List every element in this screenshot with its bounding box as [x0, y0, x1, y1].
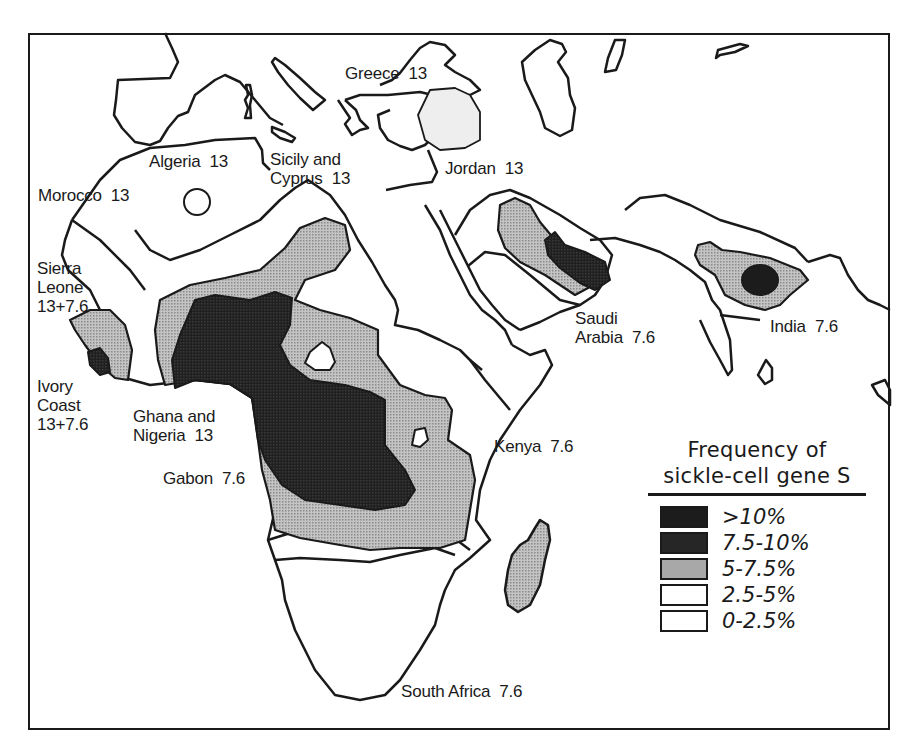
label-morocco: Morocco 13: [38, 186, 129, 205]
swatch-very-low: [660, 610, 708, 632]
legend-label: >10%: [722, 505, 786, 529]
label-jordan: Jordan 13: [445, 159, 523, 178]
legend-label: 2.5-5%: [722, 583, 796, 607]
legend-item-very-low: 0-2.5%: [660, 608, 866, 634]
legend-label: 7.5-10%: [722, 531, 810, 555]
legend-item-high: 7.5-10%: [660, 530, 866, 556]
label-ghana-nigeria: Ghana and Nigeria 13: [133, 407, 215, 445]
legend-divider: [648, 493, 866, 496]
swatch-medium: [660, 558, 708, 580]
legend-label: 5-7.5%: [722, 557, 796, 581]
legend: Frequency of sickle-cell gene S >10% 7.5…: [648, 437, 866, 634]
swatch-high: [660, 532, 708, 554]
label-algeria: Algeria 13: [149, 152, 228, 171]
label-sicily-cyprus: Sicily and Cyprus 13: [270, 150, 350, 188]
label-sierra-leone: Sierra Leone 13+7.6: [37, 259, 88, 316]
legend-title-line1: Frequency of: [648, 437, 866, 463]
label-kenya: Kenya 7.6: [494, 437, 573, 456]
legend-item-medium: 5-7.5%: [660, 556, 866, 582]
label-india: India 7.6: [770, 317, 838, 336]
swatch-very-high: [660, 506, 708, 528]
label-gabon: Gabon 7.6: [163, 469, 245, 488]
label-greece: Greece 13: [345, 64, 427, 83]
legend-label: 0-2.5%: [722, 609, 796, 633]
label-south-africa: South Africa 7.6: [401, 682, 522, 701]
label-ivory-coast: Ivory Coast 13+7.6: [37, 377, 88, 434]
swatch-low: [660, 584, 708, 606]
legend-title-line2: sickle-cell gene S: [648, 463, 866, 489]
legend-item-very-high: >10%: [660, 504, 866, 530]
label-saudi-arabia: Saudi Arabia 7.6: [575, 309, 655, 347]
legend-item-low: 2.5-5%: [660, 582, 866, 608]
